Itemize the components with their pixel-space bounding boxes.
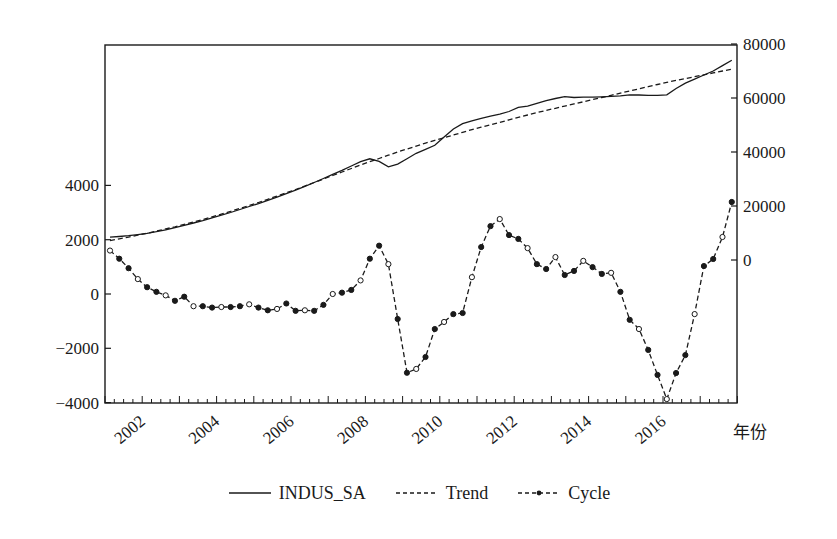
cycle-marker bbox=[200, 304, 205, 309]
cycle-marker bbox=[673, 370, 678, 375]
right-tick-label: 0 bbox=[743, 251, 752, 270]
x-tick-label: 2012 bbox=[483, 412, 521, 448]
cycle-marker bbox=[516, 236, 521, 241]
cycle-marker bbox=[293, 308, 298, 313]
cycle-marker bbox=[711, 256, 716, 261]
cycle-marker bbox=[479, 244, 484, 249]
cycle-marker bbox=[265, 308, 270, 313]
cycle-marker bbox=[172, 298, 177, 303]
cycle-marker bbox=[135, 276, 140, 281]
cycle-marker bbox=[488, 224, 493, 229]
cycle-marker bbox=[497, 216, 502, 221]
cycle-marker bbox=[590, 265, 595, 270]
left-tick-label: −2000 bbox=[55, 339, 99, 358]
plot-border bbox=[105, 45, 737, 403]
cycle-marker bbox=[247, 302, 252, 307]
left-tick-label: 0 bbox=[91, 285, 100, 304]
cycle-marker bbox=[664, 396, 669, 401]
legend-item-trend: Trend bbox=[394, 483, 488, 504]
cycle-marker bbox=[358, 278, 363, 283]
legend-item-indus-sa: INDUS_SA bbox=[227, 483, 366, 504]
right-tick-label: 60000 bbox=[743, 89, 786, 108]
dashed-line-icon bbox=[394, 487, 440, 499]
right-tick-label: 40000 bbox=[743, 143, 786, 162]
cycle-marker bbox=[627, 317, 632, 322]
legend-item-cycle: Cycle bbox=[516, 483, 610, 504]
cycle-marker bbox=[683, 352, 688, 357]
cycle-marker bbox=[191, 304, 196, 309]
cycle-marker bbox=[562, 272, 567, 277]
cycle-marker bbox=[126, 266, 131, 271]
cycle-marker bbox=[534, 262, 539, 267]
cycle-marker bbox=[330, 291, 335, 296]
cycle-marker bbox=[107, 248, 112, 253]
x-tick-label: 2016 bbox=[631, 412, 669, 448]
cycle-marker bbox=[274, 306, 279, 311]
left-tick-label: 4000 bbox=[65, 176, 99, 195]
chart: 400020000−2000−4000 80000600004000020000… bbox=[0, 0, 837, 470]
cycle-marker bbox=[237, 304, 242, 309]
cycle-marker bbox=[117, 256, 122, 261]
cycle-marker bbox=[525, 246, 530, 251]
cycle-marker bbox=[571, 268, 576, 273]
cycle-marker bbox=[460, 310, 465, 315]
cycle-marker bbox=[599, 271, 604, 276]
right-tick-label: 80000 bbox=[743, 35, 786, 54]
cycle-marker bbox=[145, 285, 150, 290]
cycle-marker bbox=[219, 304, 224, 309]
cycle-marker bbox=[618, 289, 623, 294]
left-tick-label: −4000 bbox=[55, 394, 99, 413]
cycle-marker bbox=[544, 266, 549, 271]
cycle-marker bbox=[701, 263, 706, 268]
cycle-marker bbox=[441, 319, 446, 324]
x-tick-label: 2002 bbox=[111, 412, 149, 448]
plot-frame bbox=[105, 45, 737, 403]
cycle-marker bbox=[451, 311, 456, 316]
legend-label: Trend bbox=[446, 483, 488, 504]
cycle-marker bbox=[395, 316, 400, 321]
x-axis: 20022004200620082010201220142016 bbox=[105, 396, 737, 448]
x-tick-label: 2014 bbox=[557, 411, 596, 448]
cycle-marker bbox=[414, 366, 419, 371]
right-tick-label: 20000 bbox=[743, 197, 786, 216]
series-indus-sa bbox=[110, 60, 732, 237]
solid-line-icon bbox=[227, 487, 273, 499]
cycle-marker bbox=[469, 275, 474, 280]
cycle-marker bbox=[302, 308, 307, 313]
x-tick-label: 2010 bbox=[408, 412, 446, 448]
series-layer bbox=[107, 60, 734, 401]
left-y-axis: 400020000−2000−4000 bbox=[55, 176, 111, 412]
cycle-marker bbox=[506, 232, 511, 237]
legend-label: Cycle bbox=[568, 483, 610, 504]
cycle-marker bbox=[609, 270, 614, 275]
cycle-marker bbox=[312, 308, 317, 313]
cycle-marker bbox=[154, 289, 159, 294]
cycle-marker bbox=[284, 301, 289, 306]
x-axis-title: 年份 bbox=[733, 422, 767, 442]
cycle-marker bbox=[367, 256, 372, 261]
cycle-marker bbox=[432, 326, 437, 331]
cycle-marker bbox=[720, 234, 725, 239]
cycle-marker bbox=[655, 372, 660, 377]
cycle-marker bbox=[163, 293, 168, 298]
cycle-marker bbox=[729, 199, 734, 204]
cycle-marker bbox=[553, 254, 558, 259]
legend-label: INDUS_SA bbox=[279, 483, 366, 504]
x-tick-label: 2004 bbox=[185, 411, 224, 448]
series-cycle bbox=[110, 202, 732, 399]
x-tick-label: 2006 bbox=[259, 412, 297, 448]
cycle-marker bbox=[581, 258, 586, 263]
cycle-marker bbox=[646, 347, 651, 352]
x-tick-label: 2008 bbox=[334, 412, 372, 448]
cycle-marker bbox=[404, 370, 409, 375]
cycle-marker bbox=[228, 304, 233, 309]
cycle-marker bbox=[256, 305, 261, 310]
right-y-axis: 800006000040000200000 bbox=[731, 35, 786, 270]
cycle-marker bbox=[636, 326, 641, 331]
cycle-marker bbox=[423, 354, 428, 359]
cycle-marker bbox=[377, 243, 382, 248]
legend: INDUS_SA Trend Cycle bbox=[0, 478, 837, 508]
cycle-marker bbox=[349, 287, 354, 292]
cycle-marker bbox=[339, 290, 344, 295]
cycle-marker bbox=[386, 262, 391, 267]
